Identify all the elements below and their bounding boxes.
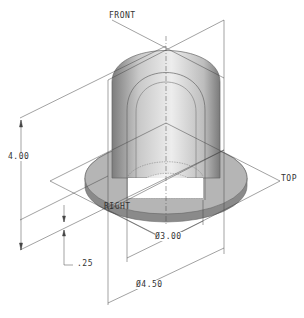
height-dimension-label: 4.00 (8, 152, 29, 161)
top-plane-label: TOP (281, 174, 297, 183)
inner-diameter-label: Ø3.00 (155, 232, 182, 241)
front-plane-label: FRONT (109, 11, 136, 20)
right-plane-label: RIGHT (104, 202, 131, 211)
height-dimension (20, 120, 23, 250)
isometric-drawing (0, 0, 304, 318)
thickness-dimension-label: .25 (77, 259, 93, 268)
outer-diameter-label: Ø4.50 (136, 280, 163, 289)
